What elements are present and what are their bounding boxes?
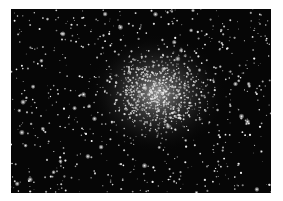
star-cluster-photo: [11, 9, 271, 193]
starfield: [11, 9, 271, 193]
cluster-core-glow: [87, 33, 227, 153]
